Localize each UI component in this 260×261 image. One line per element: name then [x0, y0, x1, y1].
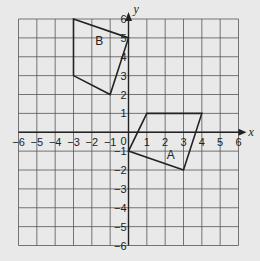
x-tick-label: −4 — [49, 136, 62, 148]
y-tick-label: −2 — [114, 164, 127, 176]
coordinate-grid: xy −6−5−4−3−2−10123456−6−5−4−3−2−1123456… — [0, 0, 260, 261]
y-tick-label: −3 — [114, 183, 127, 195]
x-tick-label: −5 — [31, 136, 44, 148]
x-tick-label: −2 — [86, 136, 99, 148]
y-axis-label: y — [133, 2, 140, 16]
x-tick-label: 6 — [235, 136, 241, 148]
y-tick-label: 5 — [120, 32, 126, 44]
shape-label-a: A — [167, 148, 175, 162]
y-tick-label: 6 — [120, 13, 126, 25]
x-tick-label: 2 — [162, 136, 168, 148]
y-tick-label: −5 — [114, 221, 127, 233]
axes: xy — [19, 2, 255, 246]
x-tick-label: 1 — [144, 136, 150, 148]
x-axis-label: x — [248, 125, 255, 139]
y-tick-label: 3 — [120, 70, 126, 82]
x-tick-label: −6 — [12, 136, 25, 148]
x-tick-label: −3 — [67, 136, 80, 148]
x-tick-label: 4 — [199, 136, 205, 148]
shape-label-b: B — [95, 34, 103, 48]
y-tick-label: 1 — [120, 107, 126, 119]
y-tick-label: −1 — [114, 145, 127, 157]
x-tick-label: 5 — [217, 136, 223, 148]
y-tick-label: 2 — [120, 89, 126, 101]
x-tick-label: 3 — [180, 136, 186, 148]
y-tick-label: −6 — [114, 240, 127, 252]
x-axis-arrow-icon — [239, 129, 247, 136]
y-tick-label: −4 — [114, 202, 127, 214]
